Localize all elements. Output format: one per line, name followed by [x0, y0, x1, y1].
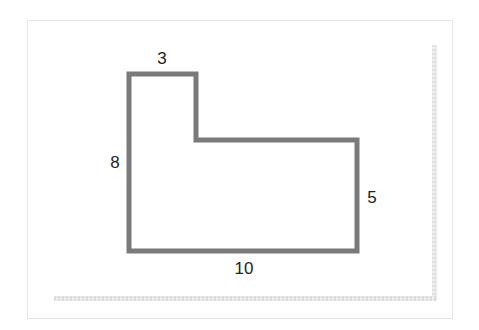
right-side-length-label: 5: [367, 189, 376, 206]
l-shape-outline: [129, 74, 357, 251]
left-side-length-label: 8: [110, 154, 119, 171]
top-side-length-label: 3: [157, 50, 166, 67]
l-shaped-figure: [0, 0, 479, 330]
bottom-side-length-label: 10: [235, 260, 254, 277]
